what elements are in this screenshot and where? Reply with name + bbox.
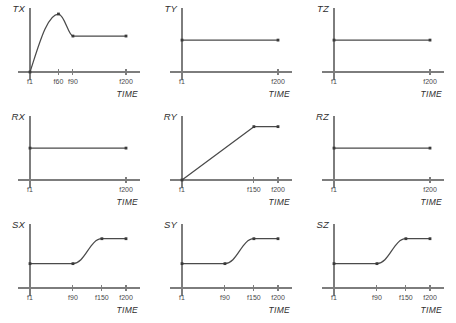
- data-point-marker: [252, 237, 255, 240]
- data-point-marker: [333, 39, 336, 42]
- x-tick-label: f90: [68, 294, 78, 301]
- data-point-marker: [333, 262, 336, 265]
- data-point-marker: [277, 237, 280, 240]
- chart-panel-sz: f1f90f150f200SZTIME: [304, 216, 456, 321]
- data-point-marker: [429, 147, 432, 150]
- data-point-marker: [57, 13, 60, 16]
- data-point-marker: [125, 237, 128, 240]
- x-tick-label: f1: [331, 294, 337, 301]
- x-tick-label: f1: [179, 294, 185, 301]
- chart-panel-sx: f1f90f150f200SXTIME: [0, 216, 152, 321]
- x-axis-label: TIME: [116, 89, 138, 99]
- data-point-marker: [181, 262, 184, 265]
- data-curve: [30, 239, 126, 264]
- x-tick-label: f200: [423, 186, 437, 193]
- x-tick-label: f200: [271, 186, 285, 193]
- data-point-marker: [277, 39, 280, 42]
- chart-panel-tx: f1f60f90f200TXTIME: [0, 0, 152, 105]
- y-axis-label: TX: [12, 3, 25, 14]
- y-axis-label: SX: [12, 219, 26, 230]
- x-tick-label: f1: [27, 186, 33, 193]
- data-point-marker: [100, 237, 103, 240]
- data-point-marker: [181, 39, 184, 42]
- y-axis-label: RZ: [316, 111, 330, 122]
- data-point-marker: [125, 147, 128, 150]
- data-curve: [182, 127, 278, 180]
- data-point-marker: [224, 262, 227, 265]
- data-point-marker: [376, 262, 379, 265]
- data-point-marker: [72, 35, 75, 38]
- chart-panel-ry: f1f150f200RYTIME: [152, 108, 304, 213]
- x-tick-label: f200: [271, 294, 285, 301]
- x-tick-label: f1: [179, 186, 185, 193]
- chart-panel-ty: f1f200TYTIME: [152, 0, 304, 105]
- x-axis-label: TIME: [420, 89, 442, 99]
- chart-panel-rx: f1f200RXTIME: [0, 108, 152, 213]
- data-curve: [334, 239, 430, 264]
- data-point-marker: [29, 71, 32, 74]
- y-axis-label: TY: [164, 3, 177, 14]
- x-tick-label: f150: [247, 294, 261, 301]
- y-axis-label: SZ: [316, 219, 330, 230]
- x-tick-label: f1: [27, 294, 33, 301]
- x-tick-label: f200: [119, 294, 133, 301]
- x-axis-label: TIME: [268, 89, 290, 99]
- x-tick-label: f200: [119, 78, 133, 85]
- x-tick-label: f90: [372, 294, 382, 301]
- data-point-marker: [72, 262, 75, 265]
- data-point-marker: [429, 39, 432, 42]
- x-tick-label: f200: [423, 78, 437, 85]
- x-tick-label: f1: [27, 78, 33, 85]
- y-axis-label: TZ: [317, 3, 330, 14]
- x-tick-label: f1: [179, 78, 185, 85]
- chart-panel-rz: f1f200RZTIME: [304, 108, 456, 213]
- data-point-marker: [29, 147, 32, 150]
- x-tick-label: f60: [54, 78, 64, 85]
- data-point-marker: [125, 35, 128, 38]
- y-axis-label: RY: [164, 111, 178, 122]
- x-tick-label: f1: [331, 78, 337, 85]
- data-point-marker: [277, 125, 280, 128]
- data-point-marker: [181, 179, 184, 182]
- x-axis-label: TIME: [116, 197, 138, 207]
- data-curve: [182, 239, 278, 264]
- data-point-marker: [333, 147, 336, 150]
- x-tick-label: f150: [95, 294, 109, 301]
- data-point-marker: [404, 237, 407, 240]
- x-tick-label: f150: [399, 294, 413, 301]
- chart-panel-tz: f1f200TZTIME: [304, 0, 456, 105]
- x-tick-label: f200: [423, 294, 437, 301]
- x-tick-label: f1: [331, 186, 337, 193]
- x-tick-label: f200: [119, 186, 133, 193]
- x-axis-label: TIME: [420, 197, 442, 207]
- data-point-marker: [429, 237, 432, 240]
- data-curve: [30, 14, 126, 72]
- x-axis-label: TIME: [116, 305, 138, 315]
- x-tick-label: f90: [220, 294, 230, 301]
- y-axis-label: RX: [11, 111, 25, 122]
- chart-panel-sy: f1f90f150f200SYTIME: [152, 216, 304, 321]
- data-point-marker: [252, 125, 255, 128]
- x-axis-label: TIME: [420, 305, 442, 315]
- x-tick-label: f150: [247, 186, 261, 193]
- data-point-marker: [29, 262, 32, 265]
- x-tick-label: f200: [271, 78, 285, 85]
- multi-panel-chart-figure: f1f60f90f200TXTIMEf1f200TYTIMEf1f200TZTI…: [0, 0, 456, 323]
- x-tick-label: f90: [68, 78, 78, 85]
- x-axis-label: TIME: [268, 197, 290, 207]
- x-axis-label: TIME: [268, 305, 290, 315]
- y-axis-label: SY: [164, 219, 178, 230]
